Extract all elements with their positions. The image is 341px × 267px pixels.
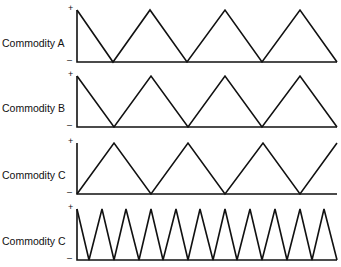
panel-c-wave [77, 143, 337, 194]
panel-b-wave [77, 76, 337, 127]
panel-a-axes [77, 10, 337, 62]
panel-d-wave [77, 209, 337, 260]
panel-a-wave [77, 10, 337, 62]
cycle-diagram [0, 0, 341, 267]
